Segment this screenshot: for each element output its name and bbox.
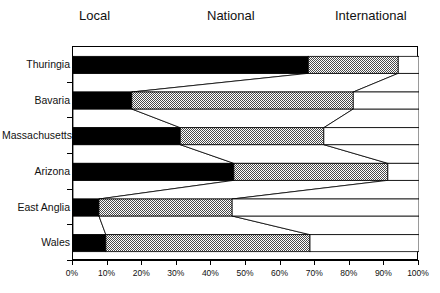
bar-segment-national: [234, 163, 388, 180]
x-axis-tick: [245, 260, 246, 265]
bar-segment-international: [232, 199, 419, 216]
bar-segment-international: [388, 163, 419, 180]
x-axis-tick: [176, 260, 177, 265]
x-axis-tick-label: 100%: [407, 268, 429, 278]
bar-segment-local: [73, 56, 308, 73]
x-axis-tick-label: 20%: [133, 268, 150, 278]
y-axis-category-label: Arizona: [2, 165, 70, 177]
bars-and-connectors: [73, 47, 419, 261]
x-axis-tick-label: 10%: [98, 268, 115, 278]
y-axis-category-label: Bavaria: [2, 94, 70, 106]
x-axis-tick: [349, 260, 350, 265]
bar-segment-local: [73, 199, 99, 216]
bar-segment-local: [73, 92, 132, 109]
x-axis-tick-label: 80%: [340, 268, 357, 278]
x-axis-tick-label: 70%: [306, 268, 323, 278]
bar-segment-international: [398, 56, 419, 73]
bar-group: [73, 199, 419, 216]
x-axis-tick-label: 60%: [271, 268, 288, 278]
bar-segment-local: [73, 128, 180, 145]
x-axis-tick: [280, 260, 281, 265]
bar-segment-local: [73, 163, 234, 180]
legend-item-national: National: [207, 8, 255, 24]
x-axis-tick: [314, 260, 315, 265]
legend-item-international: International: [335, 8, 407, 24]
x-axis: [72, 260, 418, 268]
bar-group: [73, 235, 419, 252]
x-axis-tick: [72, 260, 73, 265]
bar-group: [73, 92, 419, 109]
x-axis-tick-label: 30%: [167, 268, 184, 278]
bar-group: [73, 56, 419, 73]
x-axis-tick: [210, 260, 211, 265]
y-axis-category-labels: ThuringiaBavariaMassachusettsArizonaEast…: [0, 46, 70, 260]
x-axis-tick: [383, 260, 384, 265]
bar-segment-national: [308, 56, 398, 73]
bar-segment-international: [310, 235, 419, 252]
bar-group: [73, 163, 419, 180]
bar-segment-national: [99, 199, 232, 216]
plot-area: [72, 46, 418, 260]
stacked-bar-chart: Local National International ThuringiaBa…: [0, 0, 440, 293]
x-axis-tick-label: 0%: [66, 268, 78, 278]
x-axis-tick: [107, 260, 108, 265]
x-axis-tick-label: 40%: [202, 268, 219, 278]
y-axis-category-label: Wales: [2, 236, 70, 248]
legend-item-local: Local: [79, 8, 110, 24]
chart-legend: Local National International: [0, 6, 440, 28]
bar-segment-national: [180, 128, 324, 145]
x-axis-tick-label: 90%: [375, 268, 392, 278]
bar-segment-local: [73, 235, 106, 252]
x-axis-tick: [418, 260, 419, 265]
bar-segment-international: [324, 128, 419, 145]
bar-segment-international: [353, 92, 419, 109]
bar-group: [73, 128, 419, 145]
y-axis-category-label: Massachusetts: [2, 129, 70, 141]
bar-segment-national: [106, 235, 310, 252]
y-axis-category-label: East Anglia: [2, 201, 70, 213]
x-axis-tick: [141, 260, 142, 265]
y-axis-category-label: Thuringia: [2, 58, 70, 70]
bar-segment-national: [132, 92, 353, 109]
x-axis-tick-label: 50%: [236, 268, 253, 278]
